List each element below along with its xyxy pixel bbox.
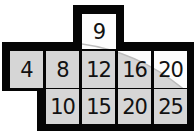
pin-label-overlay: 10 [46, 89, 79, 124]
pin-label-overlay: 20 [154, 51, 187, 88]
pin-label-overlay: 12 [82, 51, 115, 88]
pin-label-overlay: 15 [82, 89, 115, 124]
pin-label-overlay: 16 [118, 51, 151, 88]
pin-label-overlay: 8 [46, 51, 79, 88]
pin-label-overlay: 9 [82, 14, 116, 49]
pin-label-overlay: 4 [10, 51, 43, 88]
pin-label-overlay: 20 [118, 89, 151, 124]
pin-label-overlay: 25 [154, 89, 187, 124]
